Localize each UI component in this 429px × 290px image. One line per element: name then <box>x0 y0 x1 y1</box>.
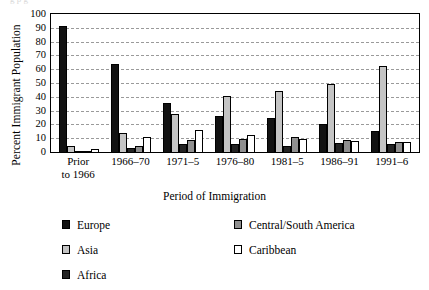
bar-groups <box>51 14 419 152</box>
x-axis-tick-label: Prior to 1966 <box>52 155 104 187</box>
legend-swatch-icon <box>62 220 70 229</box>
bar-europe-1 <box>111 64 119 152</box>
y-axis-tick-20: 20 <box>36 119 47 129</box>
bar-group <box>105 14 157 152</box>
x-axis-tick-label: 1991–6 <box>366 155 418 187</box>
bar-caribbean-0 <box>91 149 99 152</box>
bar-africa-0 <box>75 151 83 153</box>
legend-item: Caribbean <box>234 237 355 262</box>
bar-central-south-america-3 <box>239 139 247 152</box>
bar-europe-0 <box>59 26 67 152</box>
legend-item: Europe <box>62 212 110 237</box>
bar-chart-figure: Percent Immigrant Population 10090807060… <box>0 7 429 290</box>
bar-africa-1 <box>127 148 135 152</box>
y-axis-tick-40: 40 <box>36 92 47 102</box>
legend-column-left: EuropeAsiaAfrica <box>62 212 110 287</box>
legend-swatch-icon <box>234 245 242 254</box>
plot-wrapper: 1009080706050403020100 <box>26 13 422 169</box>
bar-central-south-america-6 <box>395 142 403 152</box>
bar-europe-2 <box>163 103 171 152</box>
bar-europe-4 <box>267 118 275 152</box>
y-axis-title: Percent Immigrant Population <box>8 15 24 175</box>
legend-item: Africa <box>62 262 110 287</box>
bar-europe-5 <box>319 124 327 152</box>
legend-item-label: Asia <box>77 244 98 256</box>
bar-group <box>365 14 417 152</box>
y-axis-tick-10: 10 <box>36 133 47 143</box>
bar-caribbean-5 <box>351 141 359 152</box>
y-axis-tick-90: 90 <box>36 23 47 33</box>
bar-asia-2 <box>171 114 179 152</box>
legend-item-label: Central/South America <box>249 219 355 231</box>
cut-off-caption-remnant: g p g <box>0 0 429 7</box>
legend-swatch-icon <box>234 220 242 229</box>
bar-asia-5 <box>327 84 335 152</box>
bar-central-south-america-0 <box>83 151 91 153</box>
bar-central-south-america-5 <box>343 140 351 152</box>
legend-item-label: Caribbean <box>249 244 296 256</box>
x-axis-tick-label: 1966–70 <box>104 155 156 187</box>
bar-africa-6 <box>387 144 395 152</box>
y-axis-tick-100: 100 <box>30 9 46 19</box>
bar-africa-4 <box>283 146 291 152</box>
x-axis-tick-label: 1971–5 <box>157 155 209 187</box>
bar-asia-0 <box>67 146 75 152</box>
bar-caribbean-3 <box>247 135 255 152</box>
caption-remnant-text: g p g <box>10 0 429 4</box>
y-axis-tick-0: 0 <box>41 147 46 157</box>
bar-europe-3 <box>215 116 223 152</box>
legend-item: Central/South America <box>234 212 355 237</box>
bar-caribbean-2 <box>195 130 203 152</box>
y-axis-tick-50: 50 <box>36 78 47 88</box>
bar-central-south-america-1 <box>135 146 143 152</box>
legend-swatch-icon <box>62 245 70 254</box>
bar-central-south-america-4 <box>291 137 299 152</box>
x-axis-tick-label: 1976–80 <box>209 155 261 187</box>
bar-africa-5 <box>335 143 343 152</box>
legend-item: Asia <box>62 237 110 262</box>
bar-caribbean-1 <box>143 137 151 152</box>
bar-group <box>53 14 105 152</box>
bar-asia-1 <box>119 133 127 152</box>
bar-caribbean-4 <box>299 139 307 152</box>
legend-swatch-icon <box>62 270 70 279</box>
x-axis-tick-label: 1981–5 <box>261 155 313 187</box>
x-axis-title: Period of Immigration <box>0 190 429 202</box>
bar-group <box>313 14 365 152</box>
bar-asia-6 <box>379 66 387 152</box>
x-axis-tick-label: 1986–91 <box>313 155 365 187</box>
bar-africa-3 <box>231 144 239 152</box>
legend-item-label: Africa <box>77 269 106 281</box>
bar-central-south-america-2 <box>187 140 195 152</box>
legend-column-right: Central/South AmericaCaribbean <box>234 212 355 262</box>
y-axis-tick-80: 80 <box>36 37 47 47</box>
bar-group <box>261 14 313 152</box>
x-axis-title-text: Period of Immigration <box>163 190 266 202</box>
y-axis-tick-60: 60 <box>36 64 47 74</box>
plot-area <box>50 13 420 153</box>
y-axis-title-text: Percent Immigrant Population <box>10 24 22 165</box>
bar-europe-6 <box>371 131 379 152</box>
x-axis-tick-labels: Prior to 19661966–701971–51976–801981–51… <box>50 155 420 187</box>
y-axis-tick-labels: 1009080706050403020100 <box>26 13 48 153</box>
y-axis-tick-70: 70 <box>36 50 47 60</box>
bar-asia-3 <box>223 96 231 152</box>
bar-asia-4 <box>275 91 283 152</box>
y-axis-tick-30: 30 <box>36 106 47 116</box>
bar-group <box>157 14 209 152</box>
legend-item-label: Europe <box>77 219 110 231</box>
bar-group <box>209 14 261 152</box>
bar-caribbean-6 <box>403 142 411 152</box>
bar-africa-2 <box>179 144 187 152</box>
